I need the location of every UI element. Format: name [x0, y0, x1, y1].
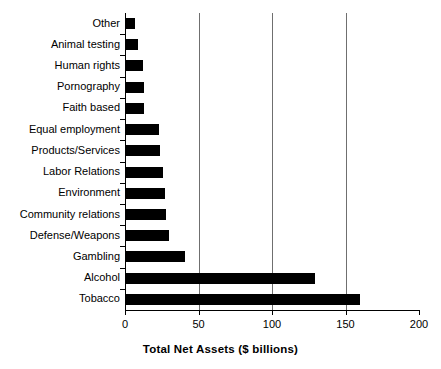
x-axis-tick-label: 200 — [399, 318, 439, 330]
x-axis-title: Total Net Assets ($ billions) — [0, 343, 441, 355]
bar-row — [125, 140, 419, 161]
category-label: Defense/Weapons — [2, 230, 120, 241]
bar — [125, 209, 166, 220]
x-axis-tick-0 — [125, 310, 126, 315]
bar — [125, 188, 165, 199]
category-label: Community relations — [2, 209, 120, 220]
category-label: Equal employment — [2, 124, 120, 135]
category-label: Products/Services — [2, 145, 120, 156]
bar — [125, 251, 185, 262]
category-label: Animal testing — [2, 39, 120, 50]
bar-row — [125, 183, 419, 204]
bar-row — [125, 246, 419, 267]
bar — [125, 273, 315, 284]
bar — [125, 167, 163, 178]
category-label: Labor Relations — [2, 166, 120, 177]
bar-rows — [125, 13, 419, 310]
category-label: Faith based — [2, 102, 120, 113]
bar-row — [125, 77, 419, 98]
category-label: Tobacco — [2, 293, 120, 304]
bar-row — [125, 55, 419, 76]
x-axis-tick-label: 100 — [252, 318, 292, 330]
bar-row — [125, 119, 419, 140]
bar-row — [125, 162, 419, 183]
bar — [125, 294, 360, 305]
bar — [125, 60, 143, 71]
bar-row — [125, 225, 419, 246]
bar-chart: OtherAnimal testingHuman rightsPornograp… — [0, 0, 441, 369]
category-label: Environment — [2, 187, 120, 198]
bar-row — [125, 268, 419, 289]
bar — [125, 124, 159, 135]
plot-area — [125, 13, 419, 310]
bar-row — [125, 13, 419, 34]
bar-row — [125, 289, 419, 310]
bar — [125, 82, 144, 93]
bar — [125, 230, 169, 241]
x-axis-tick-label: 0 — [105, 318, 145, 330]
bar — [125, 18, 135, 29]
x-axis-tick-50 — [199, 310, 200, 315]
bar-row — [125, 204, 419, 225]
x-axis-tick-100 — [272, 310, 273, 315]
x-axis-tick-label: 50 — [179, 318, 219, 330]
bar-row — [125, 34, 419, 55]
x-axis-tick-150 — [346, 310, 347, 315]
category-label: Alcohol — [2, 272, 120, 283]
category-label: Human rights — [2, 60, 120, 71]
bar-row — [125, 98, 419, 119]
bar — [125, 103, 144, 114]
category-label: Pornography — [2, 81, 120, 92]
bar — [125, 145, 160, 156]
category-axis-labels: OtherAnimal testingHuman rightsPornograp… — [0, 13, 120, 310]
category-label: Gambling — [2, 251, 120, 262]
category-label: Other — [2, 18, 120, 29]
x-axis-tick-200 — [419, 310, 420, 315]
bar — [125, 39, 138, 50]
x-axis-tick-label: 150 — [326, 318, 366, 330]
